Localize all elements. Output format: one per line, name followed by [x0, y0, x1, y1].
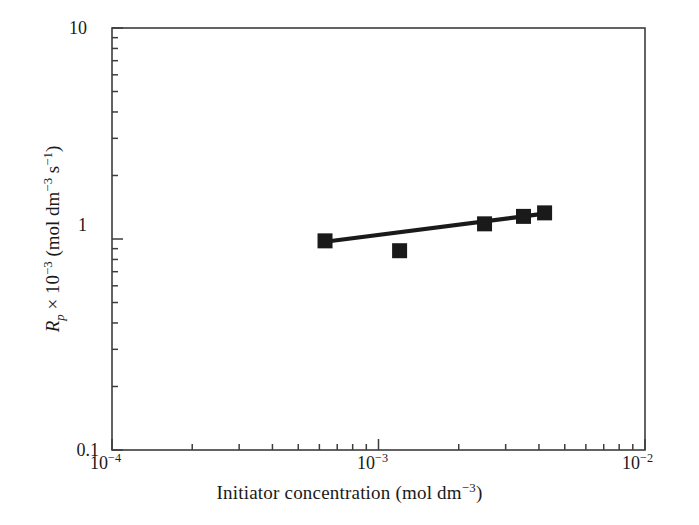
figure-background	[0, 0, 699, 525]
data-point-marker	[318, 233, 333, 248]
data-point-marker	[537, 205, 552, 220]
y-tick-label-1: 1	[78, 215, 87, 236]
x-axis-title: Initiator concentration (mol dm−3)	[0, 482, 699, 504]
x-tick-label-1e-2: 10−2	[622, 453, 653, 474]
x-tick-label-1e-4: 10−4	[90, 453, 121, 474]
y-tick-label-10: 10	[69, 18, 87, 39]
data-point-marker	[392, 243, 407, 258]
chart-figure	[0, 0, 699, 525]
data-point-marker	[477, 216, 492, 231]
data-point-marker	[516, 209, 531, 224]
x-tick-label-1e-3: 10−3	[357, 453, 388, 474]
y-axis-title: Rp × 10−3 (mol dm−3 s−1)	[42, 29, 64, 449]
